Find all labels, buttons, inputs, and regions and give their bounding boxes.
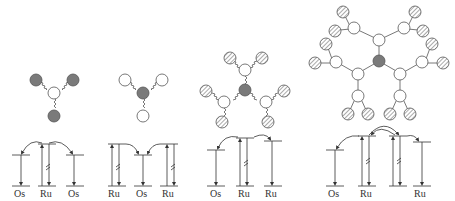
peripheral-node-os	[48, 110, 60, 122]
energy-label: Ru	[360, 188, 372, 199]
panel-4-nodes	[309, 6, 449, 120]
energy-label: Ru	[414, 188, 426, 199]
intermediate-node-ru	[352, 90, 364, 102]
panel-3-energy	[207, 135, 282, 186]
panel-3-structure	[200, 52, 290, 128]
peripheral-node	[309, 57, 321, 69]
dendrimer-diagram: Os Ru Os Ru Os Ru	[0, 0, 455, 201]
energy-label: Os	[68, 188, 79, 199]
peripheral-node	[256, 52, 268, 64]
peripheral-node	[437, 57, 449, 69]
peripheral-node	[337, 6, 349, 18]
peripheral-node	[278, 85, 290, 97]
core-node-os	[239, 84, 251, 96]
energy-label: Os	[136, 188, 147, 199]
panel-2-structure	[119, 74, 168, 122]
intermediate-node-ru	[416, 56, 428, 68]
core-node-os	[373, 55, 385, 67]
energy-label: Os	[14, 188, 25, 199]
peripheral-node	[384, 108, 396, 120]
peripheral-node	[404, 108, 416, 120]
peripheral-node-ru	[119, 74, 131, 86]
energy-label: Ru	[162, 188, 174, 199]
peripheral-node	[224, 52, 236, 64]
peripheral-node	[329, 25, 341, 37]
intermediate-node-ru	[394, 68, 406, 80]
peripheral-node	[426, 38, 438, 50]
intermediate-node-ru	[398, 22, 410, 34]
energy-label: Os	[210, 188, 221, 199]
intermediate-node-ru	[373, 34, 385, 46]
energy-label: Ru	[108, 188, 120, 199]
peripheral-node-ru	[156, 74, 168, 86]
intermediate-node-ru	[330, 56, 342, 68]
intermediate-node-ru	[260, 96, 272, 108]
peripheral-node	[342, 108, 354, 120]
peripheral-node	[262, 116, 274, 128]
peripheral-node-os	[30, 74, 42, 86]
energy-label: Os	[328, 188, 339, 199]
peripheral-node	[200, 85, 212, 97]
peripheral-node	[409, 6, 421, 18]
intermediate-node-ru	[352, 68, 364, 80]
energy-label: Ru	[265, 188, 277, 199]
panel-1-structure	[30, 74, 79, 122]
panel-4-energy	[326, 126, 431, 186]
core-node-os	[137, 87, 149, 99]
panel-2-energy	[108, 144, 178, 186]
intermediate-node-ru	[239, 64, 251, 76]
energy-label: Ru	[40, 188, 52, 199]
intermediate-node-ru	[394, 90, 406, 102]
energy-label: Ru	[238, 188, 250, 199]
peripheral-node-ru	[137, 110, 149, 122]
peripheral-node	[320, 38, 332, 50]
peripheral-node-os	[67, 74, 79, 86]
peripheral-node	[362, 108, 374, 120]
peripheral-node	[417, 25, 429, 37]
panel-1-energy	[12, 142, 84, 186]
core-node-ru	[48, 87, 60, 99]
peripheral-node	[216, 116, 228, 128]
intermediate-node-ru	[348, 22, 360, 34]
intermediate-node-ru	[218, 96, 230, 108]
